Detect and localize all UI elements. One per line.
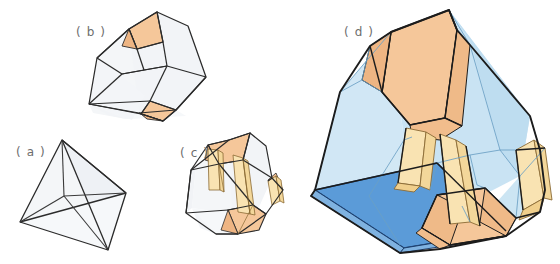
panel-d-large-solid: ( d ) [0, 0, 560, 264]
figure-canvas: ( a ) [0, 0, 560, 264]
panel-d-label: ( d ) [344, 25, 374, 39]
